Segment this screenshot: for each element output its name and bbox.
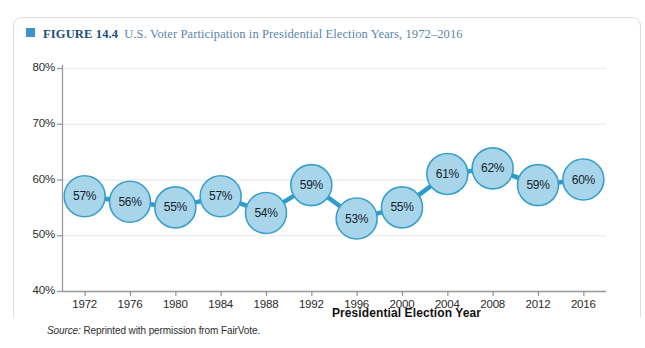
x-axis-title: Presidential Election Year	[0, 306, 645, 320]
source-label: Source:	[47, 325, 81, 336]
figure-caption: FIGURE 14.4 U.S. Voter Participation in …	[26, 27, 463, 42]
source-text: Reprinted with permission from FairVote.	[83, 325, 260, 336]
source-note: Source: Reprinted with permission from F…	[47, 325, 260, 336]
square-bullet-icon	[26, 28, 35, 37]
figure-number: FIGURE 14.4	[43, 27, 118, 42]
figure-frame	[13, 17, 641, 317]
x-axis-title-text: Presidential Election Year	[332, 306, 481, 320]
figure-title: U.S. Voter Participation in Presidential…	[124, 27, 462, 42]
